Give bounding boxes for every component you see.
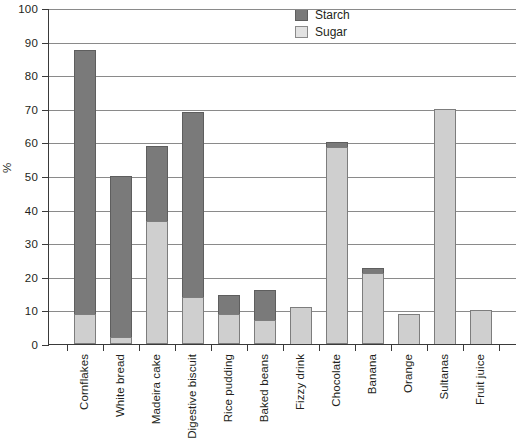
- y-axis-title: %: [1, 163, 13, 173]
- x-axis-label-baked-beans: Baked beans: [258, 354, 270, 422]
- x-axis-label-rice-pudding: Rice pudding: [222, 354, 234, 422]
- x-axis-tick-mark: [283, 344, 284, 351]
- x-axis-label-fizzy-drink: Fizzy drink: [294, 354, 306, 410]
- x-axis-label-fruit-juice: Fruit juice: [474, 354, 486, 405]
- x-axis-tick-mark: [67, 344, 68, 351]
- y-axis-tick-label: 30: [25, 238, 38, 250]
- x-axis-label-banana: Banana: [366, 354, 378, 394]
- x-axis-label-digestive-biscuit: Digestive biscuit: [186, 354, 198, 439]
- y-axis-tick-label: 60: [25, 137, 38, 149]
- x-axis-tick-mark: [211, 344, 212, 351]
- y-axis-tick-mark: [42, 43, 49, 44]
- y-axis-tick-label: 80: [25, 70, 38, 82]
- y-axis-tick-mark: [42, 278, 49, 279]
- y-axis-tick-mark: [42, 143, 49, 144]
- x-axis-tick-mark: [103, 344, 104, 351]
- y-axis-tick-label: 10: [25, 305, 38, 317]
- x-axis-label-chocolate: Chocolate: [330, 354, 342, 407]
- x-axis-tick-mark: [355, 344, 356, 351]
- y-axis-tick-mark: [42, 110, 49, 111]
- x-axis-tick-mark: [139, 344, 140, 351]
- y-axis-tick-mark: [42, 211, 49, 212]
- y-axis-tick-mark: [42, 76, 49, 77]
- y-axis-tick-mark: [42, 345, 49, 346]
- plot-area: 1009080706050403020100: [48, 9, 516, 345]
- x-axis-tick-mark: [427, 344, 428, 351]
- x-axis-tick-mark: [247, 344, 248, 351]
- y-axis-tick-mark: [42, 244, 49, 245]
- y-axis-tick-label: 0: [31, 339, 38, 351]
- x-axis-label-sultanas: Sultanas: [438, 354, 450, 400]
- y-axis-tick-mark: [42, 311, 49, 312]
- x-axis-label-orange: Orange: [402, 354, 414, 393]
- x-axis-ticks-layer: [49, 9, 516, 344]
- y-axis-tick-mark: [42, 177, 49, 178]
- y-axis-tick-label: 90: [25, 37, 38, 49]
- x-axis-tick-mark: [391, 344, 392, 351]
- y-axis-tick-mark: [42, 9, 49, 10]
- stacked-bar-chart: % Starch Sugar 1009080706050403020100 Co…: [0, 0, 525, 448]
- x-axis-label-cornflakes: Cornflakes: [78, 354, 90, 410]
- x-axis-tick-mark: [175, 344, 176, 351]
- x-axis-tick-mark: [319, 344, 320, 351]
- x-axis-label-white-bread: White bread: [114, 354, 126, 417]
- x-axis-label-madeira-cake: Madeira cake: [150, 354, 162, 424]
- y-axis-tick-label: 40: [25, 205, 38, 217]
- x-axis-tick-mark: [499, 344, 500, 351]
- y-axis-tick-label: 100: [18, 3, 38, 15]
- x-axis-tick-mark: [463, 344, 464, 351]
- y-axis-tick-label: 20: [25, 272, 38, 284]
- y-axis-tick-label: 70: [25, 104, 38, 116]
- y-axis-tick-label: 50: [25, 171, 38, 183]
